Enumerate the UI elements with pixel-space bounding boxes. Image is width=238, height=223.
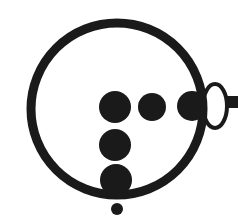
- dot-row2-shape: [99, 129, 131, 161]
- dot-row1-left-shape: [99, 91, 131, 123]
- figure-root: Diagram: large open ring containing five…: [0, 0, 238, 223]
- dot-row1-mid-shape: [138, 93, 166, 121]
- dot-row3-shape: [100, 164, 132, 196]
- dot-small-below-shape: [111, 203, 123, 215]
- ring-diagram-svg: [0, 0, 238, 223]
- dot-row1-right-shape: [177, 91, 207, 121]
